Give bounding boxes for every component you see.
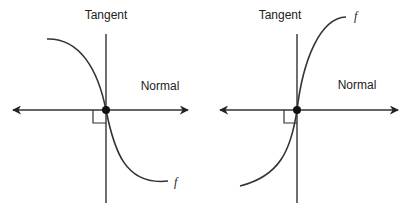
- left-tangency-point: [102, 106, 110, 114]
- right-tangent-label: Tangent: [259, 8, 302, 22]
- right-function-curve: [240, 17, 346, 186]
- right-function-label: f: [354, 9, 359, 23]
- left-diagram: Tangent Normal f: [13, 8, 188, 203]
- tangent-normal-figure: Tangent Normal f Tangent Normal f: [0, 0, 407, 208]
- left-normal-label: Normal: [141, 79, 180, 93]
- right-tangency-point: [293, 106, 301, 114]
- left-function-label: f: [174, 175, 179, 189]
- right-diagram: Tangent Normal f: [220, 8, 398, 203]
- right-normal-label: Normal: [338, 78, 377, 92]
- left-tangent-label: Tangent: [85, 8, 128, 22]
